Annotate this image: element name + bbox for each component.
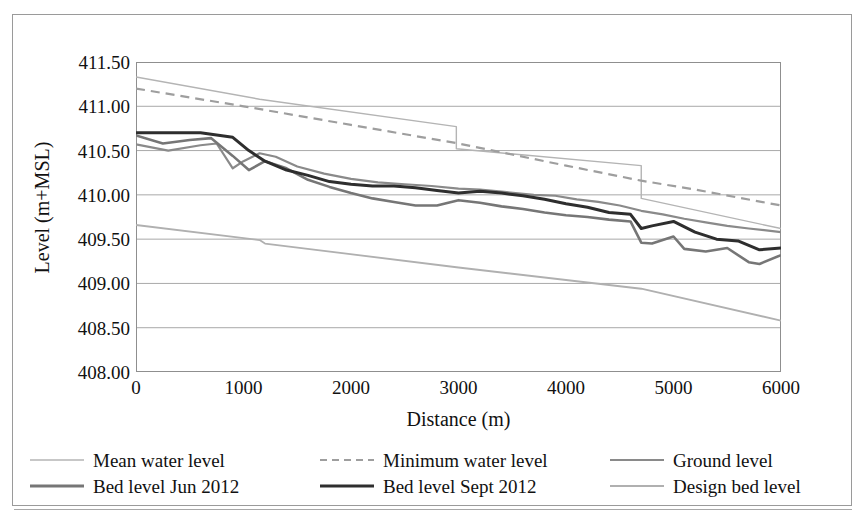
plot-frame — [137, 63, 781, 372]
legend-row-2: Bed level Jun 2012 Bed level Sept 2012 D… — [30, 473, 830, 499]
legend-item-bed-level-sept-2012: Bed level Sept 2012 — [320, 477, 610, 496]
y-tick-label: 410.50 — [44, 141, 130, 160]
legend-item-ground-level: Ground level — [610, 451, 830, 470]
legend-label: Design bed level — [673, 477, 801, 496]
x-tick-label: 6000 — [762, 378, 800, 397]
legend-label: Bed level Sept 2012 — [383, 477, 537, 496]
y-tick-label: 411.00 — [44, 97, 130, 116]
legend-label: Mean water level — [93, 451, 225, 470]
legend-label: Ground level — [673, 451, 773, 470]
legend-label: Minimum water level — [383, 451, 548, 470]
plot-canvas — [136, 62, 781, 372]
series-line-mean-water-level — [136, 77, 781, 228]
chart-legend: Mean water level Minimum water level Gro… — [30, 447, 830, 503]
legend-line-icon — [610, 453, 664, 467]
legend-item-minimum-water-level: Minimum water level — [320, 451, 610, 470]
x-tick-label: 0 — [131, 378, 141, 397]
y-axis-title: Level (m+MSL) — [31, 88, 54, 328]
y-tick-label: 410.00 — [44, 185, 130, 204]
legend-line-icon — [320, 479, 374, 493]
x-tick-label: 4000 — [547, 378, 585, 397]
legend-item-design-bed-level: Design bed level — [610, 477, 830, 496]
legend-line-icon — [30, 479, 84, 493]
y-tick-label: 408.00 — [44, 363, 130, 382]
legend-dashed-line-icon — [320, 453, 374, 467]
x-axis-tick-labels: 0100020003000400050006000 — [136, 378, 781, 406]
y-tick-label: 409.50 — [44, 230, 130, 249]
x-tick-label: 1000 — [225, 378, 263, 397]
chart-figure: 408.00408.50409.00409.50410.00410.50411.… — [0, 0, 868, 523]
legend-item-bed-level-jun-2012: Bed level Jun 2012 — [30, 477, 320, 496]
legend-row-1: Mean water level Minimum water level Gro… — [30, 447, 830, 473]
footer-rule — [14, 509, 852, 510]
plot-area — [136, 62, 781, 372]
x-axis-title: Distance (m) — [136, 408, 781, 431]
x-tick-label: 5000 — [655, 378, 693, 397]
legend-line-icon — [30, 453, 84, 467]
legend-label: Bed level Jun 2012 — [93, 477, 239, 496]
x-tick-label: 2000 — [332, 378, 370, 397]
y-axis-tick-labels: 408.00408.50409.00409.50410.00410.50411.… — [40, 62, 130, 372]
y-tick-label: 411.50 — [44, 53, 130, 72]
legend-line-icon — [610, 479, 664, 493]
legend-item-mean-water-level: Mean water level — [30, 451, 320, 470]
x-tick-label: 3000 — [440, 378, 478, 397]
series-line-bed-level-jun-2012 — [136, 136, 781, 264]
y-tick-label: 408.50 — [44, 318, 130, 337]
y-tick-label: 409.00 — [44, 274, 130, 293]
